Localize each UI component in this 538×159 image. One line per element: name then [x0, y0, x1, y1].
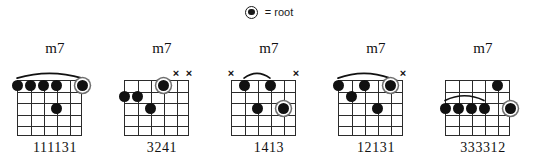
fret-line	[232, 115, 295, 116]
finger-dot	[359, 80, 370, 91]
finger-dot	[265, 80, 276, 91]
fret-line	[339, 126, 402, 127]
fret-line	[125, 126, 188, 127]
root-legend: = root	[0, 4, 538, 20]
finger-dot	[25, 80, 36, 91]
root-dot-icon	[245, 6, 258, 19]
mute-x-icon: ×	[228, 68, 234, 79]
finger-dot	[51, 103, 62, 114]
chord-diagram-row: m7111131m7××3241m7××1413m7×12131m7333312	[0, 40, 538, 159]
fingering-numbers: 12131	[338, 140, 414, 155]
finger-dot	[12, 80, 23, 91]
finger-dot	[252, 103, 263, 114]
mute-x-icon: ×	[173, 68, 179, 79]
fretboard-grid	[124, 80, 189, 136]
chord-diagram-1: m7111131	[2, 40, 109, 155]
fret-line	[18, 103, 81, 104]
finger-dot	[372, 103, 383, 114]
finger-dot	[119, 91, 130, 102]
fret-line	[125, 103, 188, 104]
fretboard-area: ××	[231, 65, 307, 136]
finger-dot	[38, 80, 49, 91]
root-note-dot	[278, 103, 289, 114]
mute-x-icon: ×	[400, 68, 406, 79]
fret-line	[446, 126, 509, 127]
root-note-dot	[77, 80, 88, 91]
finger-dot	[479, 103, 490, 114]
root-note-dot	[385, 80, 396, 91]
finger-dot	[346, 91, 357, 102]
finger-dot	[239, 80, 250, 91]
finger-dot	[492, 80, 503, 91]
chord-diagram-5: m7333312	[430, 40, 537, 155]
fingering-numbers: 333312	[445, 140, 521, 155]
finger-dot	[453, 103, 464, 114]
string-line	[352, 81, 353, 135]
root-legend-label: = root	[265, 6, 293, 19]
fretboard-area: ×	[338, 65, 414, 136]
root-note-dot	[505, 103, 516, 114]
fretboard-area	[445, 65, 521, 136]
fingering-numbers: 111131	[17, 140, 93, 155]
chord-diagram-3: m7××1413	[216, 40, 323, 155]
fret-line	[339, 103, 402, 104]
mute-x-icon: ×	[293, 68, 299, 79]
fret-line	[339, 115, 402, 116]
fret-line	[446, 92, 509, 93]
chord-name-label: m7	[366, 40, 386, 56]
finger-dot	[466, 103, 477, 114]
fret-line	[232, 126, 295, 127]
fret-line	[232, 92, 295, 93]
chord-name-label: m7	[259, 40, 279, 56]
string-line	[177, 81, 178, 135]
string-line	[70, 81, 71, 135]
finger-dot	[440, 103, 451, 114]
fret-line	[18, 92, 81, 93]
fret-line	[446, 115, 509, 116]
fret-line	[18, 126, 81, 127]
fretboard-area: ××	[124, 65, 200, 136]
finger-dot	[132, 91, 143, 102]
fingering-numbers: 3241	[124, 140, 200, 155]
chord-name-label: m7	[45, 40, 65, 56]
fretboard-area	[17, 65, 93, 136]
chord-name-label: m7	[152, 40, 172, 56]
chord-diagram-2: m7××3241	[109, 40, 216, 155]
string-line	[138, 81, 139, 135]
mute-x-icon: ×	[186, 68, 192, 79]
finger-dot	[51, 80, 62, 91]
finger-dot	[333, 80, 344, 91]
chord-diagram-4: m7×12131	[323, 40, 430, 155]
fingering-numbers: 1413	[231, 140, 307, 155]
fret-line	[18, 115, 81, 116]
root-note-dot	[158, 80, 169, 91]
chord-name-label: m7	[473, 40, 493, 56]
finger-dot	[145, 103, 156, 114]
fret-line	[125, 115, 188, 116]
